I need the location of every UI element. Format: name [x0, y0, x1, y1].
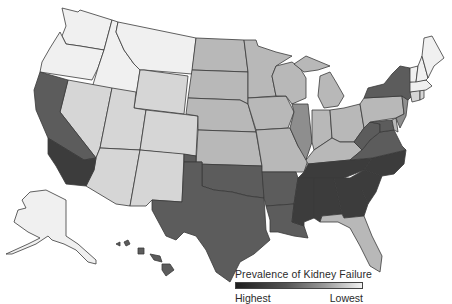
state-RI[interactable]	[420, 90, 424, 100]
legend-gradient-bar	[235, 282, 363, 289]
state-WY[interactable]	[134, 70, 188, 114]
state-ND[interactable]	[192, 38, 248, 72]
state-FL[interactable]	[320, 214, 382, 272]
state-AK[interactable]	[6, 190, 96, 264]
state-IA[interactable]	[248, 96, 294, 130]
legend-low-label: Lowest	[330, 292, 363, 304]
state-AR[interactable]	[262, 172, 298, 206]
legend-labels: Highest Lowest	[235, 292, 363, 304]
us-map	[0, 0, 452, 304]
legend: Prevalence of Kidney Failure Highest Low…	[235, 268, 363, 304]
legend-high-label: Highest	[235, 292, 271, 304]
state-WA[interactable]	[62, 8, 112, 50]
state-NM[interactable]	[130, 150, 184, 206]
state-HI[interactable]	[116, 240, 174, 276]
legend-title: Prevalence of Kidney Failure	[235, 268, 363, 280]
state-NY[interactable]	[364, 66, 412, 100]
state-CO[interactable]	[140, 110, 198, 156]
state-KS[interactable]	[196, 130, 262, 166]
